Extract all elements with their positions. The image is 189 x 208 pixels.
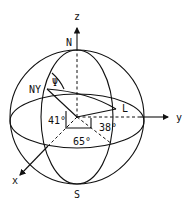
- south-pole-label: S: [74, 189, 80, 200]
- sphere-diagram: z y x N S NY L Ψ 41° 38° 65°: [0, 0, 189, 208]
- london-label: L: [122, 103, 128, 114]
- ny-radius: [47, 89, 77, 117]
- north-pole-label: N: [66, 37, 72, 48]
- london-radius: [77, 109, 116, 117]
- z-axis-label: z: [74, 11, 80, 22]
- y-axis-label: y: [176, 112, 182, 123]
- longitude-difference-label: 65°: [73, 136, 91, 147]
- x-axis-label: x: [12, 175, 18, 186]
- ny-latitude-label: 41°: [48, 115, 66, 126]
- new-york-label: NY: [29, 84, 41, 95]
- x-axis: [20, 146, 48, 175]
- london-latitude-label: 38°: [99, 122, 117, 133]
- psi-label: Ψ: [52, 77, 58, 88]
- ny-longitude-radial: [66, 117, 77, 128]
